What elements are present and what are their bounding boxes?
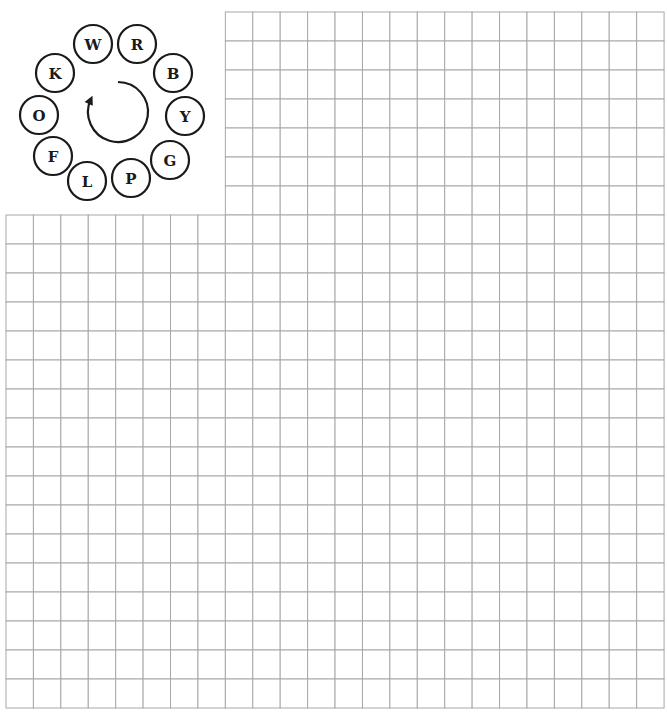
grid-cell[interactable]: [609, 650, 636, 679]
grid-cell[interactable]: [143, 215, 170, 244]
grid-cell[interactable]: [445, 302, 472, 331]
grid-cell[interactable]: [390, 273, 417, 302]
grid-cell[interactable]: [637, 505, 664, 534]
grid-cell[interactable]: [116, 447, 143, 476]
grid-cell[interactable]: [61, 476, 88, 505]
grid-cell[interactable]: [171, 331, 198, 360]
grid-cell[interactable]: [637, 621, 664, 650]
grid-cell[interactable]: [390, 621, 417, 650]
grid-cell[interactable]: [253, 70, 280, 99]
grid-cell[interactable]: [308, 302, 335, 331]
grid-cell[interactable]: [198, 592, 225, 621]
grid-cell[interactable]: [362, 650, 389, 679]
grid-cell[interactable]: [143, 273, 170, 302]
grid-cell[interactable]: [472, 12, 499, 41]
grid-cell[interactable]: [417, 563, 444, 592]
grid-cell[interactable]: [61, 679, 88, 708]
grid-cell[interactable]: [527, 128, 554, 157]
grid-cell[interactable]: [33, 360, 60, 389]
grid-cell[interactable]: [225, 476, 252, 505]
grid-cell[interactable]: [445, 650, 472, 679]
grid-cell[interactable]: [582, 244, 609, 273]
grid-cell[interactable]: [280, 157, 307, 186]
grid-cell[interactable]: [198, 650, 225, 679]
grid-cell[interactable]: [609, 389, 636, 418]
grid-cell[interactable]: [253, 505, 280, 534]
grid-cell[interactable]: [445, 215, 472, 244]
grid-cell[interactable]: [362, 563, 389, 592]
grid-cell[interactable]: [445, 331, 472, 360]
grid-cell[interactable]: [198, 215, 225, 244]
grid-cell[interactable]: [582, 621, 609, 650]
grid-cell[interactable]: [88, 679, 115, 708]
grid-cell[interactable]: [143, 447, 170, 476]
grid-cell[interactable]: [171, 476, 198, 505]
grid-cell[interactable]: [472, 389, 499, 418]
grid-cell[interactable]: [445, 621, 472, 650]
grid-cell[interactable]: [143, 505, 170, 534]
grid-cell[interactable]: [116, 476, 143, 505]
grid-cell[interactable]: [472, 70, 499, 99]
grid-cell[interactable]: [362, 505, 389, 534]
grid-cell[interactable]: [582, 679, 609, 708]
grid-cell[interactable]: [554, 360, 581, 389]
grid-cell[interactable]: [6, 389, 33, 418]
grid-cell[interactable]: [88, 360, 115, 389]
grid-cell[interactable]: [308, 157, 335, 186]
grid-cell[interactable]: [116, 273, 143, 302]
grid-cell[interactable]: [280, 70, 307, 99]
grid-cell[interactable]: [198, 447, 225, 476]
grid-cell[interactable]: [33, 447, 60, 476]
grid-cell[interactable]: [609, 186, 636, 215]
grid-cell[interactable]: [253, 563, 280, 592]
grid-cell[interactable]: [280, 447, 307, 476]
grid-cell[interactable]: [445, 389, 472, 418]
grid-cell[interactable]: [472, 650, 499, 679]
grid-cell[interactable]: [61, 447, 88, 476]
grid-cell[interactable]: [362, 12, 389, 41]
grid-cell[interactable]: [116, 360, 143, 389]
grid-cell[interactable]: [171, 273, 198, 302]
grid-cell[interactable]: [88, 650, 115, 679]
grid-cell[interactable]: [390, 99, 417, 128]
grid-cell[interactable]: [390, 679, 417, 708]
grid-cell[interactable]: [253, 302, 280, 331]
grid-cell[interactable]: [33, 592, 60, 621]
grid-cell[interactable]: [500, 389, 527, 418]
grid-cell[interactable]: [253, 99, 280, 128]
grid-cell[interactable]: [308, 418, 335, 447]
grid-cell[interactable]: [445, 128, 472, 157]
grid-cell[interactable]: [582, 563, 609, 592]
grid-cell[interactable]: [280, 41, 307, 70]
grid-cell[interactable]: [527, 41, 554, 70]
grid-cell[interactable]: [582, 534, 609, 563]
grid-cell[interactable]: [225, 360, 252, 389]
grid-cell[interactable]: [637, 447, 664, 476]
grid-cell[interactable]: [637, 534, 664, 563]
grid-cell[interactable]: [335, 389, 362, 418]
grid-cell[interactable]: [6, 621, 33, 650]
grid-cell[interactable]: [335, 186, 362, 215]
grid-cell[interactable]: [280, 679, 307, 708]
grid-cell[interactable]: [280, 476, 307, 505]
grid-cell[interactable]: [225, 128, 252, 157]
grid-cell[interactable]: [527, 157, 554, 186]
grid-cell[interactable]: [6, 679, 33, 708]
grid-cell[interactable]: [280, 244, 307, 273]
grid-cell[interactable]: [445, 447, 472, 476]
grid-cell[interactable]: [225, 215, 252, 244]
grid-cell[interactable]: [500, 534, 527, 563]
grid-cell[interactable]: [417, 41, 444, 70]
grid-cell[interactable]: [225, 505, 252, 534]
grid-cell[interactable]: [308, 360, 335, 389]
grid-cell[interactable]: [582, 418, 609, 447]
grid-cell[interactable]: [527, 418, 554, 447]
grid-cell[interactable]: [198, 302, 225, 331]
grid-cell[interactable]: [225, 679, 252, 708]
grid-cell[interactable]: [116, 621, 143, 650]
grid-cell[interactable]: [225, 244, 252, 273]
grid-cell[interactable]: [335, 360, 362, 389]
grid-cell[interactable]: [362, 592, 389, 621]
grid-cell[interactable]: [171, 563, 198, 592]
grid-cell[interactable]: [6, 447, 33, 476]
